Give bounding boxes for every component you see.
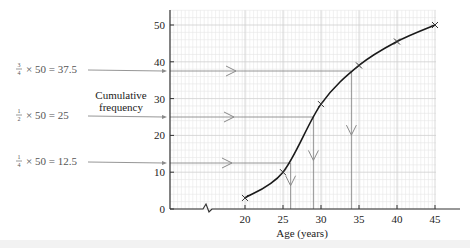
leader-line bbox=[88, 116, 164, 117]
y-tick-label: 50 bbox=[154, 19, 166, 31]
cumulative-frequency-curve bbox=[242, 22, 438, 201]
y-tick-label: 40 bbox=[154, 56, 166, 68]
annotation-text: × 50 = 25 bbox=[26, 109, 69, 121]
quartile-guide-lines bbox=[88, 66, 356, 209]
annotation-three-quarters: 3 4 × 50 = 37.5 bbox=[16, 62, 77, 76]
x-tick-label: 20 bbox=[240, 213, 252, 225]
x-tick-label: 25 bbox=[278, 213, 290, 225]
x-tick-label: 30 bbox=[316, 213, 328, 225]
x-tick-label: 40 bbox=[392, 213, 404, 225]
footer-strip bbox=[0, 240, 470, 248]
leader-line bbox=[88, 162, 164, 163]
x-axis-line-with-break bbox=[170, 204, 460, 212]
chart-figure: 01020304050202530354045 Cumulative frequ… bbox=[0, 0, 470, 248]
y-tick-label: 0 bbox=[160, 203, 166, 215]
y-axis-label-line2: frequency bbox=[99, 101, 143, 113]
annotation-text: × 50 = 12.5 bbox=[26, 155, 77, 167]
x-axis-label: Age (years) bbox=[276, 227, 328, 240]
annotation-half: 1 2 × 50 = 25 bbox=[16, 108, 69, 122]
y-tick-label: 30 bbox=[154, 93, 166, 105]
cumulative-frequency-chart: 01020304050202530354045 Cumulative frequ… bbox=[0, 0, 470, 248]
y-tick-label: 10 bbox=[154, 166, 166, 178]
fraction-denominator: 4 bbox=[18, 162, 21, 168]
y-axis-label-line1: Cumulative bbox=[95, 89, 146, 101]
x-tick-label: 35 bbox=[354, 213, 366, 225]
leader-arrowhead-icon bbox=[162, 115, 167, 119]
leader-arrowhead-icon bbox=[162, 161, 167, 165]
x-tick-label: 45 bbox=[430, 213, 442, 225]
leader-arrowhead-icon bbox=[162, 69, 167, 73]
fraction-denominator: 2 bbox=[18, 116, 21, 122]
annotation-text: × 50 = 37.5 bbox=[26, 63, 77, 75]
leader-line bbox=[88, 70, 164, 71]
axes bbox=[170, 10, 460, 212]
annotation-quarter: 1 4 × 50 = 12.5 bbox=[16, 154, 77, 168]
fraction-numerator: 1 bbox=[18, 108, 21, 114]
y-tick-label: 20 bbox=[154, 129, 166, 141]
fraction-denominator: 4 bbox=[18, 70, 21, 76]
fraction-numerator: 3 bbox=[18, 62, 21, 68]
fraction-numerator: 1 bbox=[18, 154, 21, 160]
